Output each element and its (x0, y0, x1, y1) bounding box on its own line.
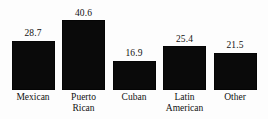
category-label-other: Other (213, 92, 257, 117)
category-label-mexican: Mexican (11, 92, 55, 117)
category-label-line2: American (163, 103, 207, 114)
category-label-latin-american: Latin American (163, 92, 207, 117)
bar-cuban[interactable] (113, 61, 156, 90)
bar-value-label: 25.4 (176, 34, 193, 45)
bar-value-label: 21.5 (226, 40, 243, 51)
bar-value-label: 16.9 (125, 48, 142, 59)
bar-latin-american[interactable] (163, 46, 206, 90)
bar-group-other[interactable]: 21.5 (213, 5, 257, 90)
bar-group-puerto-rican[interactable]: 40.6 (62, 5, 106, 90)
bar-group-cuban[interactable]: 16.9 (112, 5, 156, 90)
bar-value-label: 28.7 (24, 28, 41, 39)
bar-value-label: 40.6 (75, 8, 92, 19)
category-label-line1: Other (224, 92, 246, 102)
plot-area: 28.7 40.6 16.9 25.4 21.5 (11, 5, 257, 90)
category-label-line1: Puerto (71, 92, 96, 102)
category-label-cuban: Cuban (112, 92, 156, 117)
bar-chart-figure: 28.7 40.6 16.9 25.4 21.5 Mexican Puerto … (0, 0, 268, 119)
category-label-line1: Cuban (122, 92, 147, 102)
category-label-line2: Rican (62, 103, 106, 114)
category-axis: Mexican Puerto Rican Cuban Latin America… (11, 92, 257, 117)
category-label-line1: Mexican (16, 92, 49, 102)
bar-mexican[interactable] (12, 41, 55, 90)
bar-group-mexican[interactable]: 28.7 (11, 5, 55, 90)
bar-group-latin-american[interactable]: 25.4 (163, 5, 207, 90)
category-label-line1: Latin (174, 92, 194, 102)
bar-other[interactable] (214, 53, 257, 90)
category-label-puerto-rican: Puerto Rican (62, 92, 106, 117)
bar-puerto-rican[interactable] (62, 20, 105, 90)
